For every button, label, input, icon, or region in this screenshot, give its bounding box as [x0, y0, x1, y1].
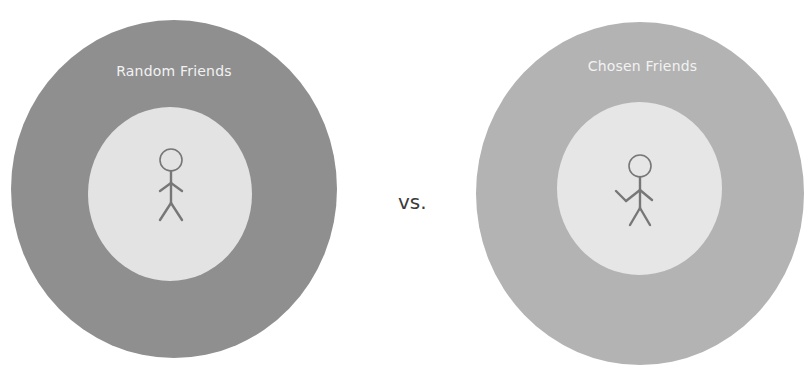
chosen-friends-label: Chosen Friends: [560, 58, 725, 74]
stick-figure-waving-icon: [612, 150, 662, 230]
stick-figure-icon: [150, 148, 190, 228]
random-friends-label: Random Friends: [94, 63, 254, 79]
versus-label: vs.: [398, 190, 427, 214]
